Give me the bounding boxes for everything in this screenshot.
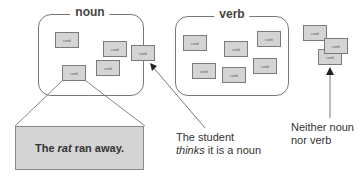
student-line1: The student: [176, 131, 261, 144]
word-card: rank: [96, 60, 120, 76]
neither-annotation: Neither noun nor verb: [291, 121, 354, 147]
word-card: rank: [224, 41, 248, 57]
student-line2-rest: it is a noun: [205, 144, 261, 156]
word-card: rank: [222, 67, 246, 83]
verb-set-title: verb: [214, 7, 249, 21]
noun-set: [38, 14, 144, 96]
thinks-emph: thinks: [176, 144, 205, 156]
student-annotation: The student thinks it is a noun: [176, 131, 261, 157]
word-card-misclassified: rank: [131, 45, 155, 61]
sentence-box: The rat ran away.: [15, 126, 144, 170]
neither-line2: nor verb: [291, 134, 354, 147]
word-card: rank: [103, 41, 127, 57]
noun-set-title: noun: [70, 5, 109, 19]
word-card: rank: [257, 31, 281, 47]
sentence-pre: The: [35, 142, 58, 154]
word-card: rank: [324, 38, 348, 54]
word-card: rank: [192, 63, 216, 79]
word-card: rank: [183, 35, 207, 51]
sentence-post: ran away.: [72, 142, 124, 154]
word-card: rank: [55, 32, 79, 48]
word-card: rank: [253, 58, 277, 74]
neither-line1: Neither noun: [291, 121, 354, 134]
word-card-rat: rank: [62, 65, 86, 81]
sentence-emph: rat: [58, 142, 72, 154]
student-line2: thinks it is a noun: [176, 144, 261, 157]
